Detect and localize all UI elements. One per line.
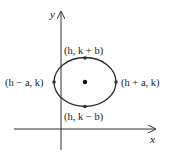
bottom-point-label: (h, k − b) [64,111,104,123]
y-axis-label: y [49,8,55,20]
right-vertex-point [114,80,118,84]
center-point [83,80,87,84]
left-point-label: (h − a, k) [5,77,44,89]
right-point-label: (h + a, k) [121,77,160,89]
top-point-label: (h, k + b) [64,45,104,57]
bottom-vertex-point [83,105,87,109]
ellipse-diagram: x y (h, k + b) (h − a, k) (h + a, k) (h,… [0,0,173,154]
top-vertex-point [83,56,87,60]
left-vertex-point [52,80,56,84]
x-axis-label: x [149,133,155,145]
